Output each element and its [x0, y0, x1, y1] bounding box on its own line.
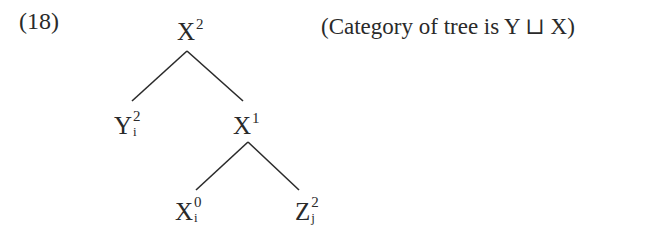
tree-node-root: X2 — [177, 19, 204, 44]
edge-x1-right — [248, 142, 299, 190]
node-base: Y — [114, 112, 132, 139]
node-sub: i — [133, 125, 137, 138]
node-sup: 1 — [252, 110, 260, 126]
node-sup: 2 — [196, 16, 204, 32]
node-base: X — [175, 198, 193, 225]
node-sup: 0 — [194, 195, 202, 210]
node-sup: 2 — [311, 195, 319, 210]
node-sub: i — [194, 211, 198, 224]
edge-root-left — [132, 51, 187, 101]
node-base: X — [233, 112, 251, 139]
node-base: Z — [295, 198, 310, 225]
node-sub: j — [311, 211, 315, 224]
tree-node-right-left-child: X0i — [175, 199, 205, 224]
edge-x1-left — [196, 142, 248, 190]
tree-node-left-child: Y2i — [114, 113, 144, 138]
node-sup: 2 — [133, 109, 141, 124]
tree-edges — [0, 0, 647, 241]
tree-node-right-right-child: Z2j — [295, 199, 322, 224]
tree-node-right-child: X1 — [233, 113, 260, 138]
node-base: X — [177, 18, 195, 45]
edge-root-right — [187, 51, 243, 101]
